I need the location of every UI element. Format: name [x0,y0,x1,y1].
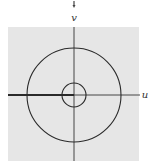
u-axis-label: u [142,89,148,100]
down-arrow-icon [73,1,76,8]
v-axis-label: v [71,12,77,23]
complex-plane-diagram: v u [0,0,156,164]
